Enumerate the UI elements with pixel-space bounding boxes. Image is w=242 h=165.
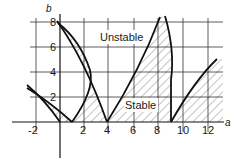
y-tick: 8 [50, 16, 56, 28]
y-tick: 2 [50, 91, 56, 103]
x-axis-label: a [225, 117, 231, 128]
x-tick: 6 [130, 124, 136, 136]
x-tick: 4 [104, 124, 110, 136]
x-tick: -2 [28, 124, 38, 136]
stability-diagram: b a -2 2 4 6 8 10 12 2 4 6 8 Unstable St… [0, 0, 242, 165]
x-tick: 8 [154, 124, 160, 136]
y-tick: 6 [50, 41, 56, 53]
unstable-region-label: Unstable [100, 31, 143, 43]
x-tick: 12 [202, 124, 214, 136]
x-tick: 10 [177, 124, 189, 136]
x-tick: 2 [80, 124, 86, 136]
stable-region-label: Stable [125, 99, 156, 111]
y-tick: 4 [50, 66, 56, 78]
y-axis-label: b [46, 3, 52, 14]
